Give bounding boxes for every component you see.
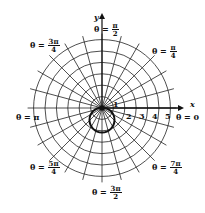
x-axis-label: x: [190, 99, 195, 109]
y-axis-label: y: [94, 12, 99, 22]
pole: [100, 106, 105, 111]
angle-label-3pi-4: θ = 3π4: [30, 38, 60, 53]
radial-tick-5: 5: [165, 111, 171, 121]
radial-tick-3: 3: [139, 111, 145, 121]
radial-tick-1: 1: [113, 99, 119, 109]
angle-label-0: θ = 0: [176, 113, 199, 121]
angle-label-pi-4: θ = π4: [152, 44, 177, 59]
radial-tick-4: 4: [152, 111, 158, 121]
angle-label-7pi-4: θ = 7π4: [152, 160, 182, 175]
x-axis-arrow-icon: [178, 105, 184, 111]
radial-tick-2: 2: [126, 111, 132, 121]
y-axis-arrow-icon: [99, 13, 105, 19]
angle-label-5pi-4: θ = 5π4: [30, 160, 60, 175]
angle-label-pi-2: θ = π2: [94, 22, 119, 37]
angle-label-pi: θ = π: [16, 113, 39, 121]
angle-label-3pi-2: θ = 3π2: [92, 185, 122, 200]
